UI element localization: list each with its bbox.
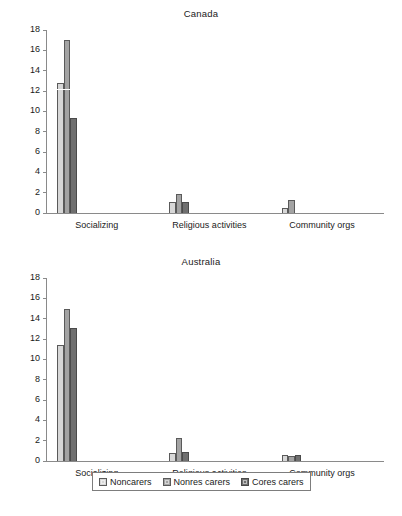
y-tick-label: 16 [30,44,40,55]
legend-item-0: Noncarers [99,477,152,487]
y-tick-label: 2 [35,187,40,198]
bar-canada-2-1 [288,200,294,213]
y-tick-label: 10 [30,353,40,364]
y-tick-label: 12 [30,333,40,344]
y-tick-label: 8 [35,126,40,137]
bar-group-australia-1 [169,278,250,461]
legend-label: Nonres carers [174,477,231,487]
legend-item-1: Nonres carers [163,477,231,487]
chart-panel-canada: Canada 181614121086420 SocializingReligi… [0,0,402,238]
chart-page: Canada 181614121086420 SocializingReligi… [0,0,402,516]
legend-swatch-icon [99,478,107,486]
legend-label: Noncarers [110,477,152,487]
bar-groups-canada [47,30,384,213]
y-tick-label: 6 [35,394,40,405]
y-tick-label: 12 [30,85,40,96]
plot-area-canada: 181614121086420 [46,30,384,214]
legend-swatch-icon [241,478,249,486]
bar-canada-1-2 [182,202,188,213]
chart-title-canada: Canada [0,8,402,19]
legend-swatch-icon [163,478,171,486]
y-tick-label: 6 [35,146,40,157]
bar-canada-0-2 [70,118,76,213]
y-tick-label: 10 [30,105,40,116]
legend-label: Cores carers [252,477,304,487]
y-tick-label: 18 [30,272,40,283]
bar-group-canada-2 [282,30,363,213]
y-tick-label: 14 [30,65,40,76]
y-tick-label: 8 [35,374,40,385]
legend-item-2: Cores carers [241,477,304,487]
bar-australia-1-2 [182,452,188,461]
y-tick-label: 18 [30,24,40,35]
bar-annotation-line [57,89,84,90]
chart-panel-australia: Australia 181614121086420 SocializingRel… [0,250,402,490]
bar-group-canada-1 [169,30,250,213]
y-tick-label: 0 [35,207,40,218]
y-tick-label: 4 [35,414,40,425]
plot-area-australia: 181614121086420 [46,278,384,462]
x-label-canada-2: Community orgs [153,219,402,231]
bar-group-canada-0 [57,30,138,213]
chart-legend: NoncarersNonres carersCores carers [92,472,311,491]
y-tick-label: 14 [30,313,40,324]
bar-group-australia-2 [282,278,363,461]
y-tick-label: 16 [30,292,40,303]
y-tick-label: 4 [35,166,40,177]
bar-groups-australia [47,278,384,461]
chart-title-australia: Australia [0,256,402,267]
page-caption-partial [18,500,384,512]
bar-australia-0-2 [70,328,76,461]
y-tick-label: 2 [35,435,40,446]
bar-australia-2-2 [295,455,301,461]
bar-group-australia-0 [57,278,138,461]
x-axis-labels-canada: SocializingReligious activitiesCommunity… [46,219,384,235]
y-tick-label: 0 [35,455,40,466]
